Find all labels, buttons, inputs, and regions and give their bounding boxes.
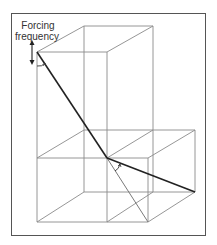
thin-diagonal-line [107,158,148,222]
forcing-label-line2: frequency [12,31,62,42]
outer-frame [12,14,206,236]
upper-cube [37,26,153,158]
forcing-label-line1: Forcing [16,20,60,31]
heavy-pendulum-line-lower [107,158,195,192]
forcing-frequency-double-arrow-icon [30,40,35,65]
heavy-pendulum-line-upper [37,52,107,158]
